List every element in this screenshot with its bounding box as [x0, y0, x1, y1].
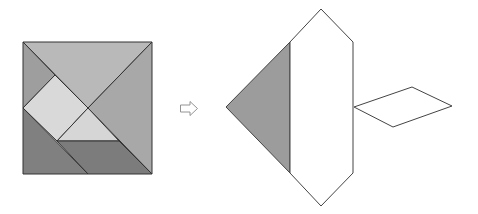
figure-rhombus [354, 87, 452, 127]
tangram-diagram [0, 0, 478, 214]
arrow-icon [181, 102, 198, 116]
figure-triangle [226, 42, 290, 173]
figure-hexagon [290, 9, 353, 206]
result-figure [226, 9, 452, 206]
source-square [23, 42, 152, 174]
